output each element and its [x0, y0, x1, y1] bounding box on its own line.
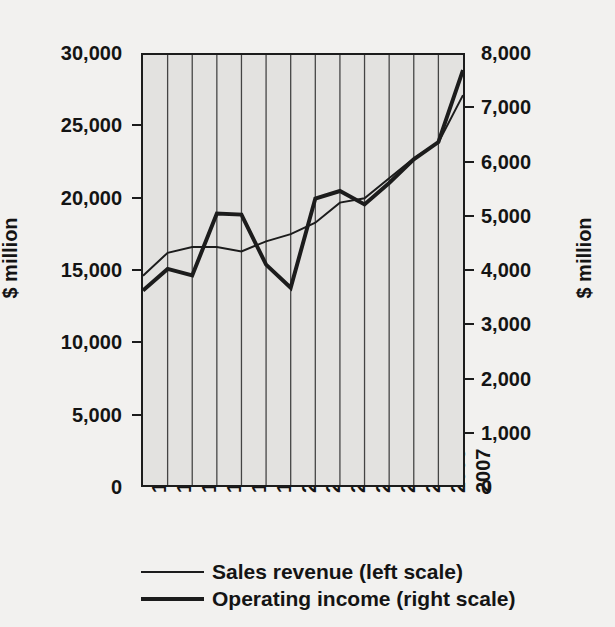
y-tick-label-right: 5,000: [481, 206, 531, 226]
y-tick-mark-right: [464, 378, 474, 380]
chart-page: $ million $ million 05,00010,00015,00020…: [0, 0, 615, 627]
y-tick-label-right: 7,000: [481, 97, 531, 117]
legend-line-swatch-thin: [141, 565, 204, 579]
y-tick-mark-right: [464, 161, 474, 163]
plot-area: [141, 53, 465, 487]
y-tick-label-left: 15,000: [61, 260, 122, 280]
legend-label-operating-income: Operating income (right scale): [212, 588, 515, 609]
legend-label-sales-revenue: Sales revenue (left scale): [212, 561, 463, 582]
y-axis-title-left: $ million: [0, 217, 20, 298]
y-tick-mark-right: [464, 106, 474, 108]
x-tick-label: 2007: [473, 449, 493, 494]
y-tick-label-left: 10,000: [61, 332, 122, 352]
y-tick-label-right: 4,000: [481, 260, 531, 280]
y-tick-label-right: 6,000: [481, 152, 531, 172]
series-lines: [143, 55, 463, 485]
y-tick-mark-right: [464, 269, 474, 271]
y-tick-label-left: 0: [111, 477, 122, 497]
y-tick-mark-right: [464, 432, 474, 434]
series-line: [143, 70, 463, 290]
chart-legend: Sales revenue (left scale) Operating inc…: [141, 558, 541, 612]
y-tick-label-left: 5,000: [72, 405, 122, 425]
y-tick-label-left: 30,000: [61, 43, 122, 63]
y-tick-mark-right: [464, 323, 474, 325]
y-tick-mark-right: [464, 215, 474, 217]
legend-line-swatch-thick: [141, 592, 204, 606]
y-tick-label-left: 20,000: [61, 188, 122, 208]
y-tick-label-right: 1,000: [481, 423, 531, 443]
legend-item-sales-revenue: Sales revenue (left scale): [141, 558, 541, 585]
legend-item-operating-income: Operating income (right scale): [141, 585, 541, 612]
y-tick-label-left: 25,000: [61, 115, 122, 135]
y-tick-label-right: 3,000: [481, 314, 531, 334]
y-axis-title-right: $ million: [574, 217, 594, 298]
y-tick-label-right: 8,000: [481, 43, 531, 63]
y-tick-label-right: 2,000: [481, 369, 531, 389]
